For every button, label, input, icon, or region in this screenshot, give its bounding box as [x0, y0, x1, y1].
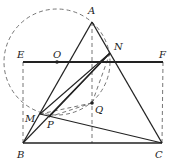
label-N: N — [113, 41, 124, 52]
label-P: P — [46, 119, 54, 130]
label-M: M — [24, 113, 36, 124]
point-Q — [90, 101, 94, 105]
segment-MC — [40, 114, 162, 143]
segment-MQ — [40, 103, 92, 114]
label-A: A — [87, 5, 95, 16]
segment-FC — [162, 62, 163, 143]
label-B: B — [16, 149, 24, 160]
label-O: O — [53, 49, 61, 60]
segment-AC — [92, 22, 162, 143]
label-C: C — [155, 149, 163, 160]
label-Q: Q — [95, 104, 103, 115]
geometry-diagram: A N E O F M P Q B C — [0, 0, 172, 166]
label-F: F — [158, 49, 167, 60]
point-O — [55, 60, 59, 64]
label-E: E — [16, 49, 25, 60]
